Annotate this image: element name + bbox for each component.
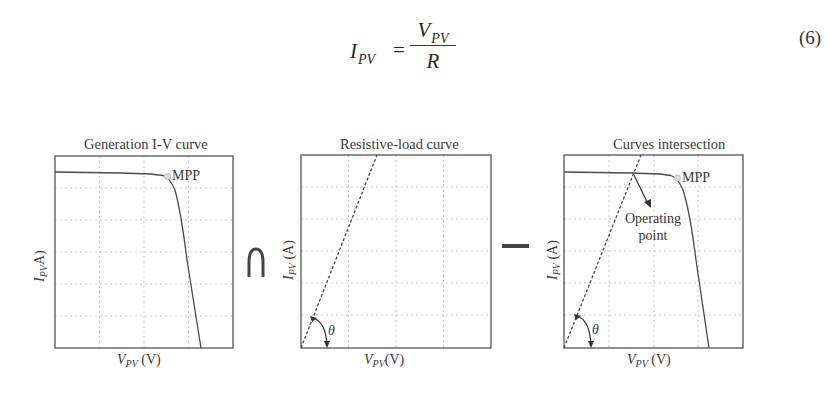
- panel-2-y-axis-label: IPV (A): [281, 240, 297, 280]
- x-label-var: V: [364, 352, 373, 367]
- x-label-var: V: [627, 352, 636, 367]
- panel-3-mpp-label: MPP: [682, 170, 710, 186]
- x-label-unit: (V): [648, 352, 671, 367]
- x-label-sub: PV: [126, 358, 138, 369]
- panel-3-plot: [564, 155, 743, 348]
- panel-1-plot: [55, 156, 233, 348]
- x-label-unit: (V): [385, 352, 404, 367]
- x-label-sub: PV: [636, 358, 648, 369]
- operating-point-label-line-1: Operating: [621, 210, 685, 227]
- y-label-unit: A): [32, 250, 47, 265]
- theta-arrowhead-bottom-icon: [324, 341, 330, 348]
- figure-graphics: [0, 0, 838, 401]
- theta-arrowhead-bottom-icon: [588, 341, 594, 348]
- iv-curve: [55, 172, 201, 348]
- panel-3-x-axis-label: VPV (V): [627, 352, 671, 368]
- y-label-sub: PV: [551, 263, 562, 275]
- panel-3-y-axis-label: IPV (A): [545, 240, 561, 280]
- intersection-operator-icon: [249, 249, 263, 277]
- result-operator-icon: [502, 244, 529, 248]
- panel-3-theta-label: θ: [592, 322, 599, 338]
- iv-curve: [564, 172, 709, 348]
- panel-2-theta-label: θ: [328, 323, 335, 339]
- panel-1-mpp-label: MPP: [172, 168, 200, 184]
- y-label-sub: PV: [38, 265, 49, 277]
- panel-3-grid: [564, 155, 743, 348]
- mpp-marker: [675, 175, 681, 181]
- panel-2-plot: [301, 155, 491, 348]
- panel-1-y-axis-label: IPVA): [32, 250, 48, 282]
- x-label-unit: (V): [138, 352, 161, 367]
- y-label-var: I: [545, 275, 560, 280]
- panel-1-grid: [55, 156, 233, 348]
- y-label-var: I: [281, 275, 296, 280]
- operating-point-label-line-2: point: [621, 227, 685, 244]
- operating-point-arrowhead-icon: [644, 199, 651, 208]
- y-label-unit: (A): [545, 240, 560, 263]
- panel-2-title: Resistive-load curve: [340, 136, 459, 153]
- x-label-var: V: [117, 352, 126, 367]
- mpp-marker: [165, 174, 171, 180]
- panel-1-x-axis-label: VPV (V): [117, 352, 161, 368]
- operating-point-label: Operating point: [621, 210, 685, 244]
- y-label-sub: PV: [287, 263, 298, 275]
- panel-2-x-axis-label: VPV(V): [364, 352, 404, 368]
- operating-point-arrow: [634, 175, 648, 204]
- x-label-sub: PV: [373, 358, 385, 369]
- panel-1-title: Generation I-V curve: [84, 136, 208, 153]
- panel-3-title: Curves intersection: [613, 136, 725, 153]
- y-label-var: I: [32, 277, 47, 282]
- y-label-unit: (A): [281, 240, 296, 263]
- panel-2-grid: [301, 155, 491, 348]
